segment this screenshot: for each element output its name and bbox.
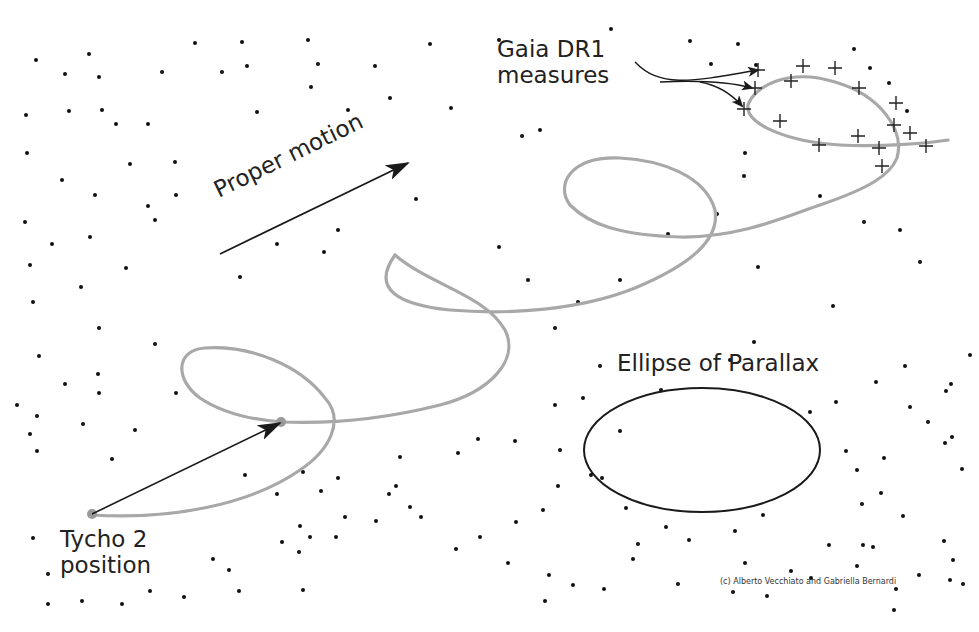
star-dot (743, 151, 747, 155)
star-dot (926, 420, 930, 424)
star-dot (182, 595, 186, 599)
star-dot (871, 545, 875, 549)
star-dot (688, 39, 692, 43)
star-dot (81, 422, 85, 426)
star-dot (336, 476, 340, 480)
gaia-measure-cross (828, 61, 842, 75)
star-dot (571, 583, 575, 587)
star-dot (860, 502, 864, 506)
star-dot (831, 304, 835, 308)
star-dot (336, 228, 340, 232)
star-dot (581, 396, 585, 400)
star-dot (513, 439, 517, 443)
star-dot (862, 220, 866, 224)
star-dot (898, 228, 902, 232)
star-dot (852, 47, 856, 51)
star-dot (174, 391, 178, 395)
star-dot (497, 245, 501, 249)
star-dot (761, 513, 765, 517)
star-dot (388, 96, 392, 100)
star-dot (892, 608, 896, 612)
star-dot (541, 508, 545, 512)
star-dot (35, 449, 39, 453)
star-dot (526, 278, 530, 282)
star-dot (874, 380, 878, 384)
star-dot (97, 75, 101, 79)
star-dot (827, 543, 831, 547)
ellipse-of-parallax-label: Ellipse of Parallax (617, 351, 819, 377)
gaia-measure-crosses (737, 59, 933, 173)
star-dot (46, 602, 50, 606)
star-dot (275, 492, 279, 496)
star-dot (146, 204, 150, 208)
star-dot (553, 403, 557, 407)
gaia-measure-cross (851, 129, 865, 143)
star-dot (903, 364, 907, 368)
star-dot (743, 561, 747, 565)
star-dot (67, 109, 71, 113)
star-dot (96, 372, 100, 376)
star-dot (879, 491, 883, 495)
star-dot (414, 197, 418, 201)
star-dot (454, 547, 458, 551)
star-dot (24, 113, 28, 117)
star-dot (275, 242, 279, 246)
star-dot (63, 72, 67, 76)
star-dot (752, 340, 756, 344)
star-dot (949, 382, 953, 386)
star-dot (120, 602, 124, 606)
star-dot (238, 275, 242, 279)
star-dot (23, 220, 27, 224)
star-dot (520, 134, 524, 138)
star-dot (855, 468, 859, 472)
star-dot (387, 492, 391, 496)
gaia-measure-cross (773, 114, 787, 128)
star-dot (731, 590, 735, 594)
star-dot (631, 557, 635, 561)
star-dot (153, 218, 157, 222)
star-dot (664, 525, 668, 529)
star-dot (918, 260, 922, 264)
star-dot (636, 542, 640, 546)
star-dot (961, 582, 965, 586)
gaia-measure-cross (796, 59, 810, 73)
star-dot (114, 122, 118, 126)
star-dot (93, 193, 97, 197)
gaia-pointer-arrows (635, 62, 758, 106)
star-dot (808, 410, 812, 414)
star-dot (428, 42, 432, 46)
star-dot (736, 42, 740, 46)
star-dot (343, 515, 347, 519)
star-dot (31, 536, 35, 540)
star-dot (34, 58, 38, 62)
star-dot (220, 70, 224, 74)
star-dot (882, 456, 886, 460)
star-dot (901, 514, 905, 518)
star-dot (240, 40, 244, 44)
star-dot (334, 535, 338, 539)
star-dot (124, 266, 128, 270)
star-dot (609, 27, 613, 31)
star-dot (944, 389, 948, 393)
star-dot (31, 300, 35, 304)
star-dot (868, 66, 872, 70)
background-stars (15, 27, 972, 612)
star-dot (373, 64, 377, 68)
star-dot (227, 568, 231, 572)
star-dot (709, 62, 713, 66)
star-dot (160, 70, 164, 74)
star-dot (297, 550, 301, 554)
star-dot (476, 437, 480, 441)
star-dot (818, 194, 822, 198)
copyright-credit: (c) Alberto Vecchiato and Gabriella Bern… (720, 578, 896, 587)
star-dot (598, 364, 602, 368)
star-dot (153, 342, 157, 346)
star-dot (553, 326, 557, 330)
star-dot (50, 242, 54, 246)
gaia-measure-cross (748, 81, 762, 95)
star-dot (844, 449, 848, 453)
star-dot (245, 64, 249, 68)
star-dot (834, 400, 838, 404)
star-dot (46, 572, 50, 576)
star-dot (547, 573, 551, 577)
